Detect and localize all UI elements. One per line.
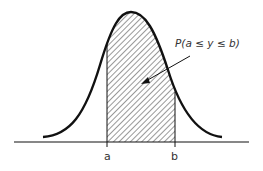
label-b: b (171, 150, 178, 163)
annotation-label: P(a ≤ y ≤ b) (175, 37, 240, 49)
normal-curve-diagram: P(a ≤ y ≤ b) a b (0, 0, 263, 171)
label-a: a (104, 150, 111, 163)
